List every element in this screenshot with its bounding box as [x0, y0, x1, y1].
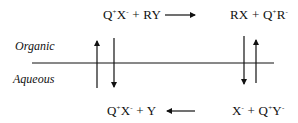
species-x-ion: X- [232, 103, 244, 118]
aqueous-phase-label: Aqueous [13, 73, 54, 86]
species-y: Y [147, 103, 157, 118]
plus-sign: + [252, 7, 260, 22]
aqueous-left-equation: Q+X- + Y [107, 104, 156, 118]
species-q-y: Q+Y- [259, 103, 285, 118]
species-q-x: Q+X- [103, 7, 129, 22]
plus-sign: + [132, 7, 140, 22]
species-rx: RX [230, 7, 248, 22]
plus-sign: + [248, 103, 256, 118]
species-ry: RY [143, 7, 161, 22]
species-q-r: Q+R- [263, 7, 288, 22]
phase-transfer-diagram: Organic Aqueous Q+X- + RY RX + Q+R- Q+X-… [0, 0, 298, 123]
aqueous-right-equation: X- + Q+Y- [232, 104, 284, 118]
plus-sign: + [136, 103, 144, 118]
organic-right-equation: RX + Q+R- [230, 8, 288, 22]
organic-left-equation: Q+X- + RY [103, 8, 161, 22]
species-q-x: Q+X- [107, 103, 133, 118]
organic-phase-label: Organic [15, 40, 55, 53]
